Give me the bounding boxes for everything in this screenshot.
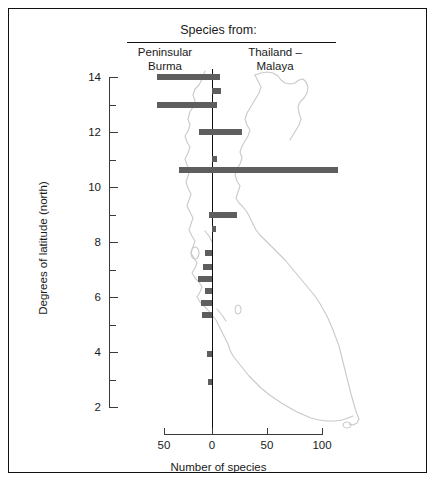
y-axis-title: Degrees of latitude (north) [37,168,49,328]
x-axis-title: Number of species [9,461,428,473]
bar-burma-12_0 [199,129,212,135]
x-tick-50 [267,428,268,435]
bar-burma-6_7 [198,276,212,282]
x-tick-label-neg50: 50 [144,439,184,451]
bar-thaimal-12_0 [212,129,242,135]
bar-thaimal-13_5 [212,88,221,94]
y-tick-3 [109,380,116,381]
bar-burma-13_0 [157,102,212,108]
bar-burma-7_1 [203,264,212,270]
bar-thaimal-10_5 [212,167,338,173]
bar-burma-3_0 [208,379,212,385]
y-tick-12: 12 [109,132,118,133]
y-tick-label-10: 10 [75,181,101,193]
bar-thaimal-11_0 [212,156,217,162]
figure-frame: Species from: Peninsular Burma Thailand … [8,8,427,473]
y-tick-4: 4 [109,352,118,353]
bar-burma-4_0 [207,351,212,357]
x-tick-label-50: 50 [247,439,287,451]
plot-area: 14 12 10 8 6 4 2 [9,9,428,474]
x-tick-neg50 [164,428,165,435]
x-axis-line [164,434,322,435]
x-tick-100 [322,428,323,435]
x-tick-0 [212,428,213,435]
y-tick-10: 10 [109,187,118,188]
y-tick-label-6: 6 [75,291,101,303]
bar-burma-7_6 [205,250,212,256]
bar-thaimal-9_0 [212,212,237,218]
y-tick-7 [109,270,116,271]
y-tick-label-12: 12 [75,126,101,138]
bar-burma-5_5 [202,312,212,318]
y-tick-14: 14 [109,77,118,78]
x-tick-label-0: 0 [192,439,232,451]
y-tick-2: 2 [109,407,118,408]
bar-thaimal-13_9 [212,74,220,80]
y-tick-11 [109,160,116,161]
bar-burma-13_9 [157,74,212,80]
y-tick-label-4: 4 [75,346,101,358]
zero-reference-line [212,69,213,434]
y-tick-6: 6 [109,297,118,298]
y-tick-label-8: 8 [75,236,101,248]
y-tick-5 [109,325,116,326]
y-tick-9 [109,215,116,216]
x-tick-label-100: 100 [302,439,342,451]
figure-stage: Species from: Peninsular Burma Thailand … [9,9,426,472]
y-tick-label-2: 2 [75,401,101,413]
y-tick-label-14: 14 [75,71,101,83]
y-tick-13 [109,105,116,106]
bar-burma-5_9 [201,300,212,306]
bar-burma-6_3 [205,288,212,294]
bar-burma-10_5 [179,167,212,173]
bar-thaimal-8_5 [212,226,216,232]
bar-thaimal-13_0 [212,102,217,108]
y-tick-8: 8 [109,242,118,243]
